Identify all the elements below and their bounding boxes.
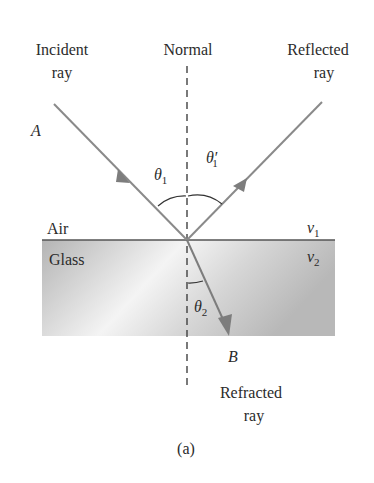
v1-label: v1 <box>307 219 320 239</box>
refracted-label-2: ray <box>244 407 264 425</box>
point-b-label: B <box>228 348 238 365</box>
theta1-arc <box>158 196 186 206</box>
incident-label: Incident <box>36 41 89 58</box>
theta1-prime-label: θ′1 <box>206 149 218 169</box>
normal-label: Normal <box>164 41 213 58</box>
figure-caption: (a) <box>177 440 195 458</box>
refracted-label: Refracted <box>220 384 282 401</box>
reflected-label-2: ray <box>314 64 334 82</box>
glass-label: Glass <box>49 251 85 268</box>
refraction-diagram: Incident ray Normal Reflected ray A B θ1… <box>0 0 374 483</box>
incident-label-2: ray <box>52 64 72 82</box>
reflected-ray <box>187 102 322 240</box>
glass-block <box>42 240 335 336</box>
theta1-prime-arc <box>188 195 222 204</box>
point-a-label: A <box>30 122 41 139</box>
reflected-label: Reflected <box>287 41 348 58</box>
air-label: Air <box>47 220 69 237</box>
theta1-label: θ1 <box>154 166 167 186</box>
incident-arrow-icon <box>116 169 130 183</box>
